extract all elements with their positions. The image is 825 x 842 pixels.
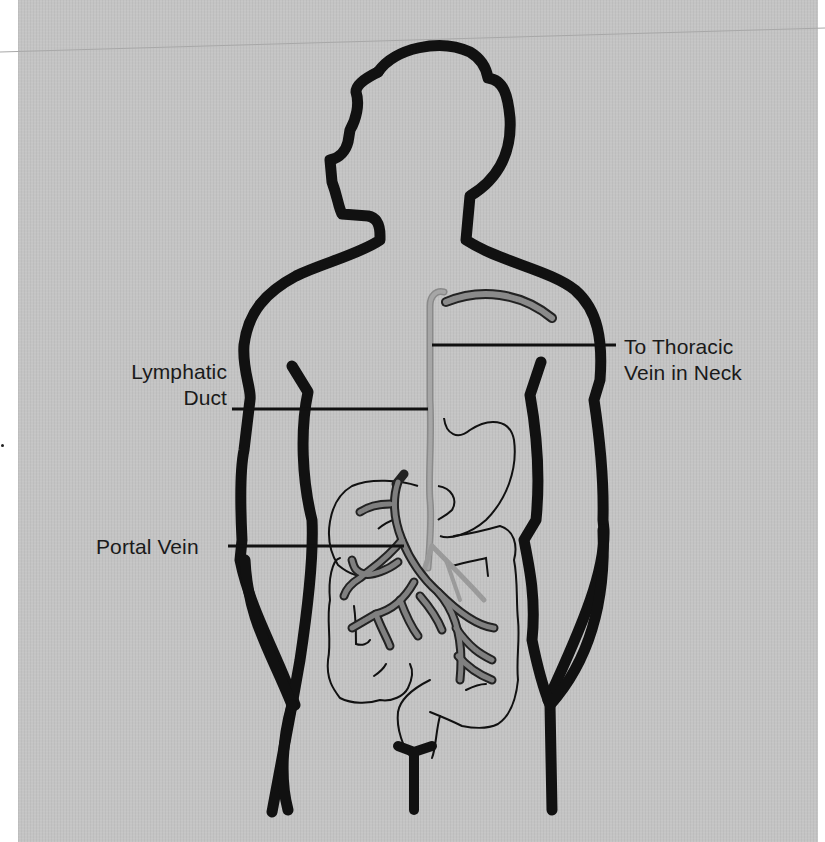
anatomy-figure <box>0 0 825 842</box>
thoracic-vein <box>446 294 552 318</box>
stomach <box>440 418 515 537</box>
label-thoracic-vein-line2: Vein in Neck <box>624 360 742 386</box>
label-lymphatic-duct: Lymphatic Duct <box>131 359 227 411</box>
label-lymphatic-duct-line2: Duct <box>131 385 227 411</box>
rectum <box>398 746 432 810</box>
label-lymphatic-duct-line1: Lymphatic <box>131 359 227 385</box>
label-portal-vein-line1: Portal Vein <box>96 534 199 560</box>
left-arm <box>272 366 312 812</box>
label-thoracic-vein: To Thoracic Vein in Neck <box>624 334 742 386</box>
lymphatic-duct <box>424 292 484 600</box>
portal-vein <box>344 474 494 680</box>
label-portal-vein: Portal Vein <box>96 534 199 560</box>
label-thoracic-vein-line1: To Thoracic <box>624 334 742 360</box>
right-arm <box>524 362 552 810</box>
leader-lines <box>228 345 616 546</box>
